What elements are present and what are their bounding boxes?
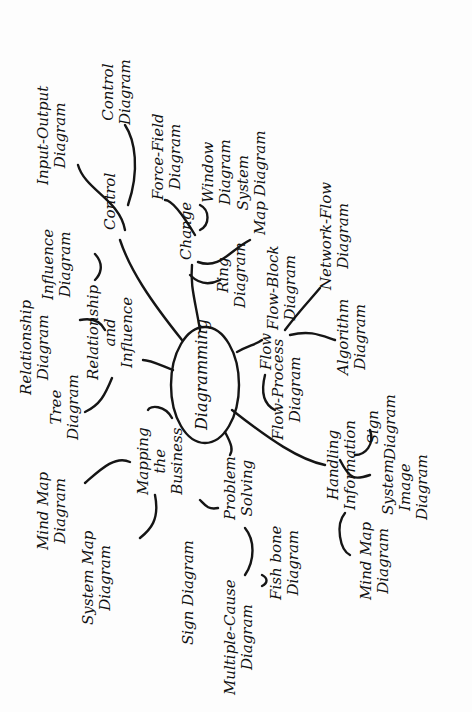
label-relationship-and-influence: Relationship and Influence <box>85 285 136 380</box>
label-flow-block-diagram: Flow-Block Diagram <box>265 246 299 331</box>
connector-control-diagram <box>125 125 135 205</box>
label-change: Change <box>178 202 195 260</box>
label-mapping-the-business: Mapping the Business <box>135 427 186 495</box>
connector-multiple-cause <box>245 528 253 575</box>
connector-mind-map-right <box>340 513 350 555</box>
label-mind-map-diagram-left: Mind Map Diagram <box>35 472 69 550</box>
connector-relationship-influence <box>143 360 173 370</box>
label-network-flow-diagram: Network-Flow Diagram <box>318 182 352 290</box>
connector-mapping <box>148 407 172 418</box>
label-sign-diagram-left: Sign Diagram <box>180 540 197 645</box>
connector-influence-diagram <box>95 254 101 280</box>
label-fish-bone-diagram: Fish bone Diagram <box>268 525 302 600</box>
connector-system-map-left <box>140 495 156 538</box>
label-problem-solving: Problem Solving <box>222 456 256 520</box>
label-sign-diagram-right: Sign Diagram <box>365 394 399 460</box>
label-input-output-diagram: Input-Output Diagram <box>35 86 69 185</box>
connector-sign-left <box>200 500 218 508</box>
label-control-diagram: Control Diagram <box>100 59 134 125</box>
label-algorithm-diagram: Algorithm Diagram <box>335 299 369 375</box>
label-mind-map-diagram-right: Mind Map Diagram <box>358 522 392 600</box>
label-system-map-diagram-left: System Map Diagram <box>80 531 114 625</box>
label-ring-diagram: Ring Diagram <box>215 242 249 308</box>
label-force-field-diagram: Force-Field Diagram <box>150 113 184 200</box>
connector-problem-solving <box>225 432 232 455</box>
label-control: Control <box>102 173 119 230</box>
label-relationship-diagram: Relationship Diagram <box>18 300 52 395</box>
connector-tree <box>85 378 112 412</box>
label-handling-information: Handling Information <box>325 420 359 510</box>
label-window-diagram: Window Diagram <box>200 139 234 205</box>
label-system-map-diagram: System Map Diagram <box>235 131 269 235</box>
label-system-image-diagram: System Image Diagram <box>380 454 431 520</box>
mind-map-canvas: Diagramming Input-Output Diagram Control… <box>0 0 472 712</box>
label-multiple-cause-diagram: Multiple-Cause Diagram <box>222 579 256 695</box>
label-flow-process-diagram: Flow-Process Diagram <box>270 339 304 440</box>
connector-window <box>200 205 208 230</box>
connector-fish-bone <box>262 575 267 586</box>
label-influence-diagram: Influence Diagram <box>40 229 74 300</box>
label-tree-diagram: Tree Diagram <box>48 374 82 440</box>
connector-mind-map-left <box>85 460 130 483</box>
center-node-label: Diagramming <box>193 319 210 430</box>
